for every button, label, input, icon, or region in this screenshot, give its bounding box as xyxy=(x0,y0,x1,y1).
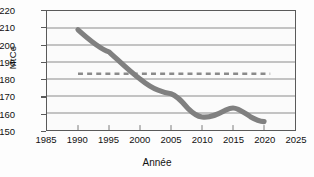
x-tickmarks xyxy=(78,125,264,130)
plot-area xyxy=(46,10,296,131)
y-tick-label-190: 190 xyxy=(0,56,15,67)
y-tick-label-160: 160 xyxy=(0,108,15,119)
y-tick-label-220: 220 xyxy=(0,5,15,16)
y-tickmark-150 xyxy=(41,131,46,132)
y-tick-label-200: 200 xyxy=(0,39,15,50)
x-axis-title: Année xyxy=(0,157,314,168)
plot-svg xyxy=(47,11,295,130)
y-tick-label-180: 180 xyxy=(0,74,15,85)
chart-figure: MtCe 220 210 200 190 180 170 160 150 xyxy=(0,0,314,177)
x-tick-label-2025: 2025 xyxy=(276,134,314,145)
gridlines xyxy=(47,28,295,113)
y-tick-label-210: 210 xyxy=(0,22,15,33)
emissions-line xyxy=(78,30,264,122)
y-tick-label-170: 170 xyxy=(0,91,15,102)
y-tick-label-150: 150 xyxy=(0,126,15,137)
